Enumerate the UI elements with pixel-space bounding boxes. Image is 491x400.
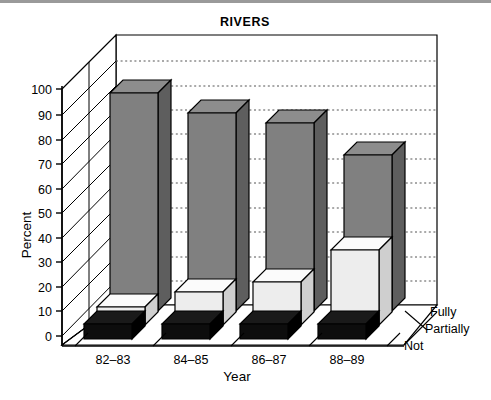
x-tick-label: 88–89	[330, 353, 365, 367]
legend-label-not: Not	[404, 339, 424, 353]
chart-title: RIVERS	[220, 15, 270, 29]
bar-82-83-not[interactable]	[84, 311, 145, 339]
y-tick-label: 80	[38, 134, 52, 148]
y-tick-label: 10	[38, 305, 52, 319]
y-tick-label: 70	[38, 158, 52, 172]
y-tick-label: 60	[38, 183, 52, 197]
y-tick-label: 90	[38, 109, 52, 123]
y-tick-label: 0	[45, 330, 52, 344]
x-tick-labels: 82–83 84–85 86–87 88–89	[96, 353, 365, 367]
rivers-3d-bar-chart: 100 90 80 70 60 50 40 30 20 10 0	[0, 0, 491, 400]
y-tick-label: 50	[38, 207, 52, 221]
bar-88-89-not[interactable]	[318, 311, 379, 339]
bar-84-85-not[interactable]	[162, 311, 223, 339]
legend-label-fully: Fully	[430, 305, 457, 319]
y-axis	[56, 86, 62, 346]
x-tick-label: 84–85	[174, 353, 209, 367]
chart-figure: 100 90 80 70 60 50 40 30 20 10 0	[0, 0, 491, 400]
x-tick-label: 86–87	[252, 353, 287, 367]
legend-label-partially: Partially	[425, 322, 470, 336]
bar-82-83-fully[interactable]	[110, 80, 171, 311]
y-tick-label: 100	[31, 83, 52, 97]
y-tick-label: 20	[38, 281, 52, 295]
y-tick-label: 30	[38, 256, 52, 270]
x-tick-label: 82–83	[96, 353, 131, 367]
y-axis-label: Percent	[19, 211, 34, 258]
y-tick-label: 40	[38, 232, 52, 246]
bar-86-87-not[interactable]	[240, 311, 301, 339]
x-axis-label: Year	[223, 369, 251, 384]
y-tick-labels: 100 90 80 70 60 50 40 30 20 10 0	[31, 83, 52, 344]
